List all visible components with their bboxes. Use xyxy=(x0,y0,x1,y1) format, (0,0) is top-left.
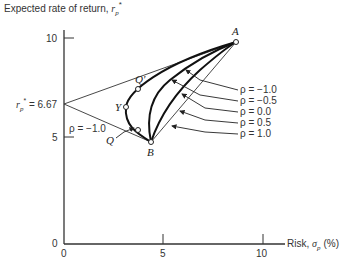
y-axis-title: Expected rate of return, rp* xyxy=(4,0,122,17)
y-tick-label-5: 5 xyxy=(52,132,58,143)
leader-rho-10 xyxy=(172,126,238,134)
x-tick-label-0: 0 xyxy=(61,248,67,259)
label-a: A xyxy=(231,25,239,37)
label-b: B xyxy=(147,146,154,158)
legend-rho-10: ρ = 1.0 xyxy=(240,128,271,139)
point-q-prime xyxy=(136,87,141,92)
label-y: Y xyxy=(115,101,123,113)
leader-rho-05 xyxy=(180,111,238,123)
y-tick-label-0: 0 xyxy=(52,238,58,249)
label-q: Q xyxy=(106,134,114,146)
point-a xyxy=(234,40,239,45)
label-q-prime: Q' xyxy=(135,73,146,85)
frontier-diagram: Expected rate of return, rp* 10 5 0 rp* … xyxy=(0,0,363,275)
legend-rho-left: ρ = −1.0 xyxy=(69,123,106,134)
legend-rho-m10: ρ = −1.0 xyxy=(240,84,277,95)
point-b xyxy=(149,140,154,145)
legend-rho-05: ρ = 0.5 xyxy=(240,117,271,128)
y-tick-label-10: 10 xyxy=(46,33,58,44)
x-tick-label-10: 10 xyxy=(256,248,268,259)
y-special-label: rp* = 6.67 xyxy=(16,97,57,113)
leader-rho-m10 xyxy=(186,70,238,90)
point-q xyxy=(136,128,141,133)
rho-m05-curve xyxy=(126,42,236,142)
x-axis-title: Risk, σp(%) xyxy=(287,238,339,252)
x-tick-label-5: 5 xyxy=(160,248,166,259)
legend-rho-00: ρ = 0.0 xyxy=(240,106,271,117)
legend-rho-m05: ρ = −0.5 xyxy=(240,95,277,106)
leader-rho-m05 xyxy=(172,80,238,101)
point-y xyxy=(124,105,129,110)
